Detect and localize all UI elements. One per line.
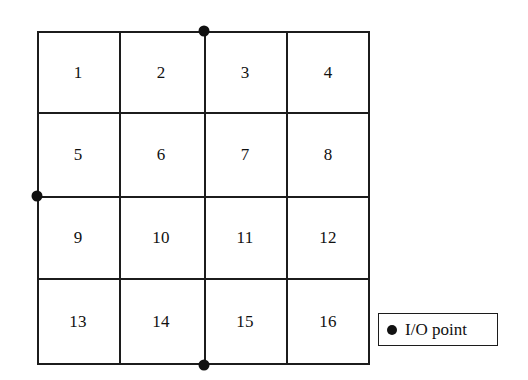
grid-cell-16: 16 [319,313,336,330]
grid-cell-1: 1 [74,64,83,81]
grid-cell-11: 11 [237,229,254,246]
io-point-bottom-icon [199,360,210,371]
io-point-left-icon [32,191,43,202]
grid-cell-4: 4 [324,64,333,81]
grid-cell-15: 15 [236,313,253,330]
grid-container: 1 2 3 4 5 6 7 8 9 10 11 12 13 14 15 16 [37,31,370,365]
grid-cell-2: 2 [157,64,166,81]
grid-cell-12: 12 [319,229,336,246]
grid-cell-7: 7 [241,146,250,163]
legend-label: I/O point [405,321,467,338]
io-point-marker-icon [387,325,397,335]
grid-cell-13: 13 [69,313,86,330]
grid-cell-10: 10 [152,229,169,246]
grid-row-divider-2 [37,196,370,198]
legend: I/O point [378,313,498,346]
grid-row-divider-1 [37,112,370,114]
grid-cell-6: 6 [157,146,166,163]
grid-cell-8: 8 [324,146,333,163]
io-point-top-icon [199,26,210,37]
grid-cell-14: 14 [152,313,169,330]
grid-cell-3: 3 [241,64,250,81]
grid-row-divider-3 [37,278,370,280]
grid-cell-5: 5 [74,146,83,163]
grid-layout-figure: 1 2 3 4 5 6 7 8 9 10 11 12 13 14 15 16 I… [0,0,528,380]
grid-cell-9: 9 [74,229,83,246]
